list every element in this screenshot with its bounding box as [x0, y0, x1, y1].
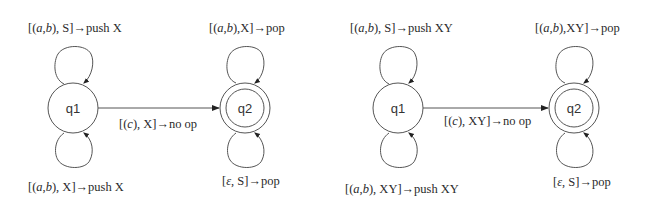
state-q1-label: q1: [66, 101, 80, 116]
q1-bottom-loop-edge: [56, 133, 93, 168]
q1-top-loop-edge: [380, 47, 417, 85]
q2-top-loop-edge: [227, 47, 264, 84]
q1-to-q2-label: [(c), X]→no op: [119, 117, 197, 131]
q2-bottom-loop-edge: [228, 133, 264, 168]
q2-bottom-loop-edge: [557, 133, 593, 168]
q1-bottom-loop-label: [(a,b), X]→push X: [28, 180, 124, 194]
state-q1-label: q1: [391, 101, 405, 116]
q1-top-loop-label: [(a,b), S]→push XY: [350, 21, 453, 35]
diagram-left: q1 q2 [(a,b), S]→push X [(a,b),X]→pop [(…: [28, 21, 285, 194]
q2-top-loop-edge: [556, 47, 593, 84]
q2-bottom-loop-label: [ε, S]→pop: [553, 175, 611, 189]
state-q2-label: q2: [567, 101, 581, 116]
q1-bottom-loop-label: [(a,b), XY]→push XY: [345, 182, 459, 196]
state-q2-label: q2: [238, 101, 252, 116]
q2-top-loop-label: [(a,b),X]→pop: [209, 21, 285, 35]
q2-bottom-loop-label: [ε, S]→pop: [222, 174, 280, 188]
q2-top-loop-label: [(a,b),XY]→pop: [535, 21, 620, 35]
q1-top-loop-label: [(a,b), S]→push X: [28, 21, 122, 35]
q1-bottom-loop-edge: [381, 133, 418, 168]
q1-to-q2-label: [(c), XY]→no op: [444, 114, 531, 128]
pda-diagrams: q1 q2 [(a,b), S]→push X [(a,b),X]→pop [(…: [0, 0, 662, 207]
q1-top-loop-edge: [55, 47, 93, 85]
diagram-right: q1 q2 [(a,b), S]→push XY [(a,b),XY]→pop …: [345, 21, 620, 196]
